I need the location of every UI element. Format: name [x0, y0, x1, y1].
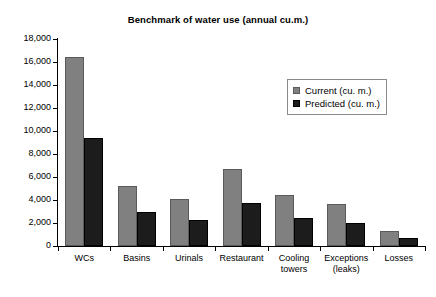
bar-predicted [399, 238, 418, 246]
bar-current [118, 186, 137, 246]
y-axis-tick-label: 18,000 [0, 34, 51, 43]
x-axis-tick [163, 247, 164, 251]
legend-item: Predicted (cu. m.) [293, 97, 380, 110]
x-axis-category-label-line: Losses [373, 253, 425, 264]
x-axis-tick [215, 247, 216, 251]
legend-item: Current (cu. m.) [293, 84, 380, 97]
y-axis-tick-label: 14,000 [0, 80, 51, 89]
bar-predicted [242, 203, 261, 246]
x-axis-category-label-line: WCs [58, 253, 110, 264]
plot-area [58, 39, 425, 246]
x-axis-tick [320, 247, 321, 251]
y-axis-tick-label: 10,000 [0, 126, 51, 135]
chart-legend: Current (cu. m.)Predicted (cu. m.) [287, 79, 387, 115]
bar-current [327, 204, 346, 246]
y-axis-tick-label: 8,000 [0, 149, 51, 158]
bar-current [223, 169, 242, 246]
legend-label: Current (cu. m.) [305, 85, 372, 96]
x-axis-tick [58, 247, 59, 251]
x-axis-category-label-line: Restaurant [215, 253, 267, 264]
y-axis-tick-label: 6,000 [0, 172, 51, 181]
x-axis-category-label: Exceptions(leaks) [320, 253, 372, 275]
bar-chart: Benchmark of water use (annual cu.m.) 18… [0, 0, 436, 297]
x-axis-category-label-line: Cooling [268, 253, 320, 264]
bar-predicted [189, 220, 208, 246]
bar-current [275, 195, 294, 246]
x-axis-tick [373, 247, 374, 251]
x-axis-category-label: Coolingtowers [268, 253, 320, 275]
y-axis-tick-label: 4,000 [0, 195, 51, 204]
chart-title: Benchmark of water use (annual cu.m.) [0, 14, 436, 25]
x-axis-category-label-line: Exceptions [320, 253, 372, 264]
legend-swatch-icon [293, 100, 300, 107]
x-axis-category-label-line: (leaks) [320, 264, 372, 275]
x-axis-tick [268, 247, 269, 251]
x-axis-tick [425, 247, 426, 251]
x-axis-category-label-line: Basins [110, 253, 162, 264]
bar-current [170, 199, 189, 246]
bar-current [380, 231, 399, 246]
x-axis-category-label-line: towers [268, 264, 320, 275]
x-axis-category-label: Urinals [163, 253, 215, 264]
bar-predicted [84, 138, 103, 246]
legend-swatch-icon [293, 87, 300, 94]
bar-predicted [137, 212, 156, 247]
x-axis-category-label: Basins [110, 253, 162, 264]
x-axis-category-label: WCs [58, 253, 110, 264]
bar-predicted [346, 223, 365, 246]
y-axis-tick-label: 16,000 [0, 57, 51, 66]
legend-label: Predicted (cu. m.) [305, 98, 380, 109]
bar-current [65, 57, 84, 246]
x-axis-category-label: Losses [373, 253, 425, 264]
bar-predicted [294, 218, 313, 246]
x-axis-category-label: Restaurant [215, 253, 267, 264]
y-axis-tick-label: 2,000 [0, 218, 51, 227]
y-axis-tick-label: 12,000 [0, 103, 51, 112]
x-axis-line [57, 246, 426, 247]
y-axis-tick-label: 0 [0, 241, 51, 250]
x-axis-tick [110, 247, 111, 251]
x-axis-category-label-line: Urinals [163, 253, 215, 264]
